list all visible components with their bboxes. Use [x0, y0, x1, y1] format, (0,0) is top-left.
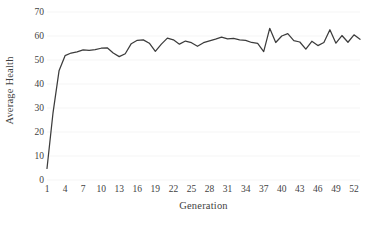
x-tick-label-7: 7 [81, 183, 86, 195]
x-tick-label-34: 34 [241, 183, 251, 195]
y-tick-label-10: 10 [35, 151, 45, 161]
x-tick-label-19: 19 [151, 183, 161, 195]
plot-area [47, 12, 360, 180]
y-tick-label-40: 40 [35, 79, 45, 89]
x-tick-label-25: 25 [187, 183, 197, 195]
x-tick-label-46: 46 [313, 183, 323, 195]
x-tick-label-49: 49 [331, 183, 341, 195]
x-tick-label-40: 40 [277, 183, 287, 195]
x-tick-label-43: 43 [295, 183, 305, 195]
x-tick-label-1: 1 [45, 183, 50, 195]
x-tick-label-4: 4 [63, 183, 68, 195]
y-axis-title: Average Health [0, 0, 18, 180]
y-tick-label-30: 30 [35, 103, 45, 113]
x-tick-label-16: 16 [133, 183, 143, 195]
x-axis-tick-labels: 147101316192225283134374043464952 [47, 183, 360, 197]
series-line-average-health [47, 28, 360, 168]
x-tick-label-22: 22 [169, 183, 179, 195]
plot-svg [47, 12, 360, 180]
x-tick-label-37: 37 [259, 183, 269, 195]
y-tick-label-70: 70 [35, 7, 45, 17]
y-axis-tick-labels: 010203040506070 [18, 0, 46, 186]
x-tick-label-10: 10 [96, 183, 106, 195]
y-tick-label-0: 0 [39, 175, 44, 185]
x-tick-label-52: 52 [349, 183, 359, 195]
y-tick-label-50: 50 [35, 55, 45, 65]
y-tick-label-60: 60 [35, 31, 45, 41]
y-tick-label-20: 20 [35, 127, 45, 137]
x-tick-label-31: 31 [223, 183, 233, 195]
x-axis-title: Generation [47, 200, 360, 211]
average-health-line-chart: Average Health 010203040506070 147101316… [0, 0, 368, 226]
x-tick-label-13: 13 [114, 183, 124, 195]
x-tick-label-28: 28 [205, 183, 215, 195]
gridlines [47, 12, 360, 180]
y-axis-title-label: Average Health [4, 56, 15, 124]
